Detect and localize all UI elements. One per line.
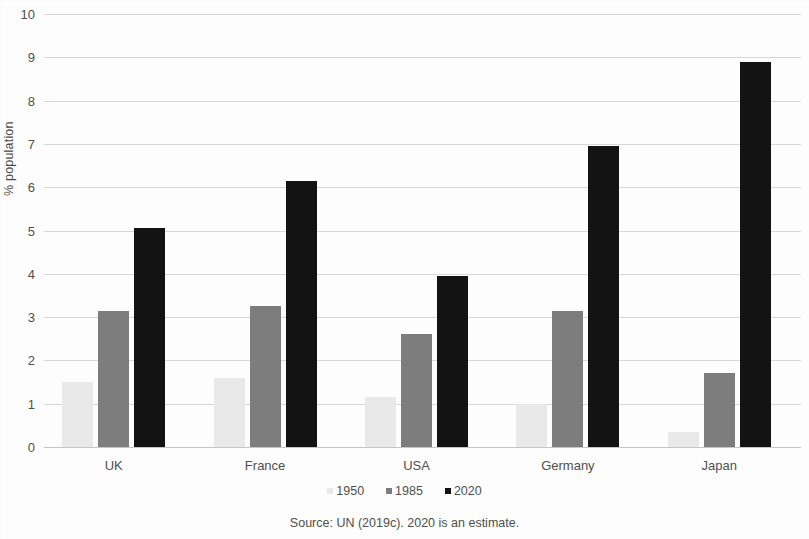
gridline-0 [44, 447, 801, 448]
x-tick-label-france: France [195, 458, 335, 473]
legend-swatch-icon-1950 [327, 488, 333, 494]
bar-series-container [44, 14, 801, 447]
chart-legend: 195019852020 [0, 484, 809, 498]
legend-label-1985: 1985 [395, 484, 423, 498]
legend-item-2020[interactable]: 2020 [445, 484, 482, 498]
y-tick-label-9: 9 [28, 50, 35, 65]
bar-germany-2020 [588, 146, 619, 447]
x-tick-label-usa: USA [347, 458, 487, 473]
y-tick-label-3: 3 [28, 310, 35, 325]
bar-uk-2020 [134, 228, 165, 447]
bar-japan-2020 [740, 62, 771, 447]
y-tick-label-8: 8 [28, 93, 35, 108]
bar-germany-1985 [552, 311, 583, 447]
legend-item-1985[interactable]: 1985 [386, 484, 423, 498]
bar-group-usa [365, 14, 468, 447]
legend-label-1950: 1950 [336, 484, 364, 498]
bar-uk-1985 [98, 311, 129, 447]
y-tick-label-5: 5 [28, 223, 35, 238]
y-tick-label-4: 4 [28, 266, 35, 281]
y-tick-label-7: 7 [28, 136, 35, 151]
bar-group-germany [516, 14, 619, 447]
bar-japan-1985 [704, 373, 735, 447]
legend-item-1950[interactable]: 1950 [327, 484, 364, 498]
y-tick-label-1: 1 [28, 396, 35, 411]
bar-usa-2020 [437, 276, 468, 447]
plot-area: 012345678910 UKFranceUSAGermanyJapan [44, 14, 801, 447]
bar-group-japan [668, 14, 771, 447]
bar-group-uk [62, 14, 165, 447]
legend-swatch-icon-1985 [386, 488, 392, 494]
y-tick-label-2: 2 [28, 353, 35, 368]
bar-france-2020 [286, 181, 317, 447]
y-tick-label-10: 10 [21, 7, 35, 22]
x-tick-label-germany: Germany [498, 458, 638, 473]
bar-france-1985 [250, 306, 281, 447]
bar-france-1950 [214, 378, 245, 447]
y-axis-label: % population [2, 76, 16, 196]
y-tick-label-0: 0 [28, 440, 35, 455]
x-tick-label-japan: Japan [649, 458, 789, 473]
source-note: Source: UN (2019c). 2020 is an estimate. [0, 516, 809, 530]
bar-japan-1950 [668, 432, 699, 447]
bar-usa-1985 [401, 334, 432, 447]
legend-label-2020: 2020 [454, 484, 482, 498]
bar-germany-1950 [516, 404, 547, 447]
y-tick-label-6: 6 [28, 180, 35, 195]
bar-uk-1950 [62, 382, 93, 447]
x-tick-label-uk: UK [44, 458, 184, 473]
legend-swatch-icon-2020 [445, 488, 451, 494]
bar-chart-figure: % population 012345678910 UKFranceUSAGer… [0, 0, 809, 539]
bar-usa-1950 [365, 397, 396, 447]
bar-group-france [214, 14, 317, 447]
